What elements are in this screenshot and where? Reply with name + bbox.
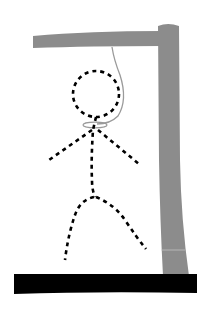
gallows-top-beam: [33, 31, 162, 48]
figure-right-arm: [98, 130, 139, 164]
figure-head: [73, 71, 119, 117]
figure-body: [92, 117, 96, 197]
gallows-base: [14, 274, 197, 294]
hangman-illustration: [0, 0, 212, 314]
rope: [97, 47, 124, 124]
figure-left-leg: [65, 197, 94, 260]
gallows-post: [158, 24, 189, 276]
figure-right-leg: [96, 197, 146, 249]
figure-left-arm: [49, 130, 92, 160]
